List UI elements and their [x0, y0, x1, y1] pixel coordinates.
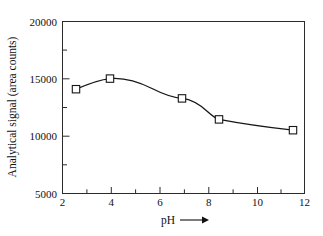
- y-axis-minor-ticks: [63, 50, 68, 165]
- y-axis-title: Analytical signal (area counts): [6, 36, 19, 177]
- y-tick-label-20000: 20000: [30, 16, 58, 28]
- x-axis-minor-ticks: [87, 189, 281, 193]
- data-series-line: [76, 78, 293, 130]
- x-tick-label-4: 4: [109, 196, 115, 208]
- data-point-marker: [215, 116, 222, 123]
- plot-frame: [63, 22, 305, 194]
- y-tick-label-10000: 10000: [30, 130, 58, 142]
- data-point-marker: [289, 127, 296, 134]
- x-axis-title: pH: [161, 214, 175, 227]
- x-axis-arrow-icon: [180, 217, 209, 224]
- ph-vs-analytical-signal-chart: 20000 15000 10000 5000 2 4 6 8 10 12 Ana…: [0, 0, 323, 236]
- x-tick-label-8: 8: [206, 196, 212, 208]
- x-axis-major-ticks: [63, 187, 305, 194]
- x-tick-label-2: 2: [60, 196, 66, 208]
- x-tick-label-6: 6: [157, 196, 163, 208]
- data-point-marker: [106, 75, 113, 82]
- x-tick-label-12: 12: [299, 196, 310, 208]
- y-tick-label-5000: 5000: [35, 188, 58, 200]
- chart-figure: 20000 15000 10000 5000 2 4 6 8 10 12 Ana…: [0, 0, 323, 236]
- data-point-marker: [72, 86, 79, 93]
- y-tick-label-15000: 15000: [30, 73, 58, 85]
- data-point-marker: [178, 95, 185, 102]
- x-tick-label-10: 10: [252, 196, 264, 208]
- data-markers: [72, 75, 296, 134]
